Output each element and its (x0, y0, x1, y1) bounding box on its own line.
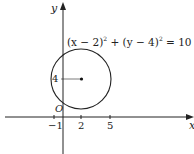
center-point (80, 77, 83, 80)
origin-label: O (55, 104, 63, 114)
y-tick-label-4: 4 (52, 74, 58, 84)
y-axis-label: y (51, 3, 57, 14)
x-axis-label: x (189, 120, 194, 131)
equation-part-a: (x − 2) (67, 36, 103, 48)
equation-part-c: = 10 (163, 36, 192, 48)
x-tick-label-5: 5 (107, 121, 113, 131)
equation-part-b: + (y − 4) (107, 36, 159, 48)
circle-diagram: y x O (x − 2)2 + (y − 4)2 = 10 4 −1 2 5 (0, 0, 194, 154)
x-tick-label-2: 2 (78, 121, 84, 131)
equation-label: (x − 2)2 + (y − 4)2 = 10 (67, 36, 192, 47)
x-tick-label-neg1: −1 (48, 121, 63, 131)
diagram-canvas (0, 0, 194, 154)
y-axis-arrow-icon (60, 2, 66, 10)
